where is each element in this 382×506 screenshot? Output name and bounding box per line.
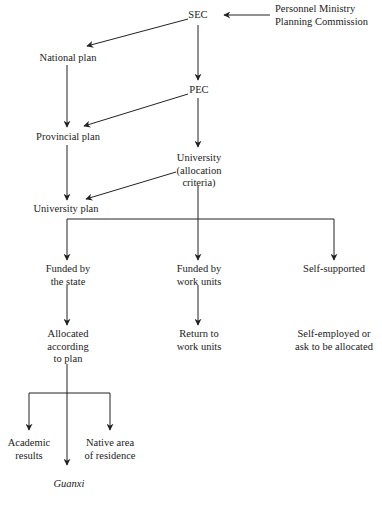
node-funded-state-line2: the state (46, 276, 91, 289)
diagram-lines (0, 0, 382, 506)
arrow-university-to-univplan (86, 172, 176, 199)
node-personnel-line1: Personnel Ministry (275, 3, 368, 16)
node-self-supported: Self-supported (303, 263, 365, 276)
node-academic-line1: Academic (8, 437, 51, 450)
node-native-line1: Native area (84, 437, 135, 450)
arrow-pec-to-provincial (84, 94, 188, 126)
node-provincial-plan: Provincial plan (36, 131, 100, 144)
node-personnel-ministry: Personnel Ministry Planning Commission (275, 3, 368, 28)
node-national-plan: National plan (40, 52, 97, 65)
node-university-line3: criteria) (177, 177, 222, 190)
node-university-plan: University plan (33, 203, 98, 216)
node-allocated-line2: according (47, 341, 88, 354)
node-allocated-plan: Allocated according to plan (47, 328, 88, 366)
node-personnel-line2: Planning Commission (275, 16, 368, 29)
node-allocated-line3: to plan (47, 353, 88, 366)
node-guanxi: Guanxi (54, 478, 85, 491)
node-university: University (allocation criteria) (177, 152, 222, 190)
arrow-sec-to-national (87, 19, 188, 46)
node-self-employed-line2: ask to be allocated (295, 341, 373, 354)
node-university-line2: (allocation (177, 165, 222, 178)
node-funded-state: Funded by the state (46, 263, 91, 288)
node-funded-state-line1: Funded by (46, 263, 91, 276)
node-return-work-units: Return to work units (177, 328, 222, 353)
node-funded-work-line2: work units (177, 276, 222, 289)
node-allocated-line1: Allocated (47, 328, 88, 341)
node-self-employed: Self-employed or ask to be allocated (295, 328, 373, 353)
node-funded-work-line1: Funded by (177, 263, 222, 276)
node-academic-results: Academic results (8, 437, 51, 462)
node-funded-work-units: Funded by work units (177, 263, 222, 288)
node-return-line2: work units (177, 341, 222, 354)
node-native-area: Native area of residence (84, 437, 135, 462)
node-academic-line2: results (8, 450, 51, 463)
node-sec: SEC (188, 9, 207, 22)
node-pec: PEC (189, 84, 208, 97)
node-university-line1: University (177, 152, 222, 165)
node-native-line2: of residence (84, 450, 135, 463)
node-self-employed-line1: Self-employed or (295, 328, 373, 341)
node-return-line1: Return to (177, 328, 222, 341)
